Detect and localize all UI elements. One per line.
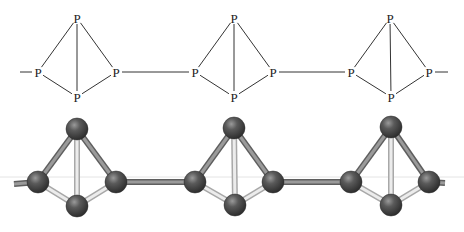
p4-unit-model-2	[195, 128, 273, 205]
bond-line	[42, 23, 74, 67]
bond-line	[199, 23, 231, 67]
phosphorus-atom-label: P	[425, 65, 432, 80]
phosphorus-atom-label: P	[269, 65, 276, 80]
phosphorus-atom-label: P	[230, 11, 237, 26]
bond-line	[238, 23, 270, 67]
bond-line	[81, 23, 113, 67]
phosphorus-chain-diagram: PPPPPPPPPPPP	[0, 0, 464, 232]
ball-and-stick-model	[0, 116, 464, 217]
p4-unit-formula-2: PPPP	[191, 11, 276, 105]
phosphorus-atom-label: P	[386, 11, 393, 26]
bond-line	[396, 75, 424, 93]
phosphorus-atom-label: P	[387, 90, 394, 105]
phosphorus-atom-sphere	[380, 194, 402, 216]
phosphorus-atom-sphere	[223, 117, 245, 139]
phosphorus-atom-label: P	[34, 65, 41, 80]
bond-line	[82, 75, 111, 94]
phosphorus-atom-sphere	[262, 171, 284, 193]
phosphorus-atom-label: P	[230, 90, 237, 105]
p4-unit-model-3	[351, 127, 429, 205]
bond-line	[390, 24, 391, 91]
p4-unit-formula-1: PPPP	[34, 11, 119, 105]
structural-formula: PPPPPPPPPPPP	[20, 11, 448, 105]
bond-line	[355, 23, 387, 67]
phosphorus-atom-label: P	[73, 90, 80, 105]
phosphorus-atom-sphere	[380, 116, 402, 138]
phosphorus-atom-sphere	[184, 171, 206, 193]
phosphorus-atom-label: P	[73, 11, 80, 26]
bond-line	[43, 75, 72, 94]
phosphorus-atom-label: P	[347, 65, 354, 80]
phosphorus-atom-sphere	[418, 171, 440, 193]
bond-line	[356, 75, 386, 94]
bond-line	[394, 23, 426, 67]
phosphorus-atom-sphere	[66, 195, 88, 217]
phosphorus-atom-sphere	[340, 171, 362, 193]
phosphorus-atom-sphere	[27, 171, 49, 193]
p4-unit-model-1	[38, 129, 116, 206]
bond-line	[239, 75, 268, 94]
phosphorus-atom-sphere	[105, 171, 127, 193]
p4-unit-formula-3: PPPP	[347, 11, 432, 105]
phosphorus-atom-label: P	[112, 65, 119, 80]
phosphorus-atom-sphere	[224, 194, 246, 216]
bond-line	[200, 75, 229, 94]
phosphorus-atom-sphere	[66, 118, 88, 140]
phosphorus-atom-label: P	[191, 65, 198, 80]
